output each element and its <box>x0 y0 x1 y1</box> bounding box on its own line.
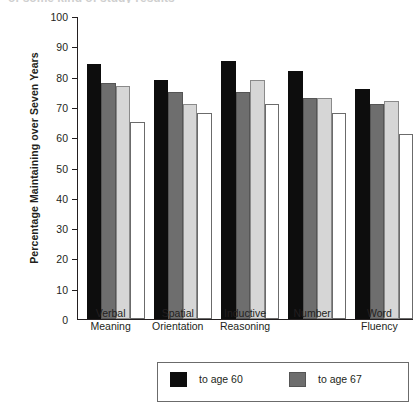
y-axis-tick-mark <box>72 229 77 230</box>
x-axis-category-label: WordFluency <box>346 307 413 332</box>
bar <box>154 80 169 319</box>
bar <box>101 83 116 319</box>
bar <box>87 64 102 319</box>
y-axis-tick-mark <box>72 290 77 291</box>
bar <box>168 92 183 319</box>
y-axis-tick-label: 100 <box>50 11 68 23</box>
y-axis-tick-mark <box>72 259 77 260</box>
x-axis-category-label-line: Orientation <box>144 320 211 333</box>
legend-swatch-icon-1 <box>289 372 306 387</box>
y-axis-tick-label: 10 <box>56 284 68 296</box>
legend-label-0: to age 60 <box>199 373 243 385</box>
chart-legend: to age 60 to age 67 <box>157 362 409 402</box>
bar <box>355 89 370 319</box>
bar <box>116 86 131 319</box>
y-axis-tick-label: 30 <box>56 223 68 235</box>
y-axis-tick-mark <box>72 78 77 79</box>
clipped-title-text: of some kind of study results <box>8 0 238 3</box>
x-axis-category-label-line: Spatial <box>144 307 211 320</box>
y-axis-tick-label: 70 <box>56 102 68 114</box>
y-axis-tick-mark <box>72 17 77 18</box>
bar <box>221 61 236 319</box>
legend-item-1: to age 67 <box>289 372 408 387</box>
bar-group <box>355 17 413 319</box>
bar <box>130 122 145 319</box>
bar <box>250 80 265 319</box>
bar <box>317 98 332 319</box>
x-axis-category-label-line: Word <box>346 307 413 320</box>
plot-area: 0102030405060708090100 <box>77 17 413 320</box>
legend-label-1: to age 67 <box>318 373 362 385</box>
legend-item-0: to age 60 <box>170 372 289 387</box>
bar-group <box>288 17 346 319</box>
y-axis-tick-mark <box>72 138 77 139</box>
x-axis-category-label-line: Meaning <box>77 320 144 333</box>
bar <box>288 71 303 319</box>
bar-group <box>154 17 212 319</box>
y-axis-title: Percentage Maintaining over Seven Years <box>28 28 40 288</box>
x-axis-category-label-line: Reasoning <box>211 320 278 333</box>
x-axis-category-label-line: Fluency <box>346 320 413 333</box>
y-axis-tick-label: 20 <box>56 253 68 265</box>
bar-series-container <box>78 17 413 319</box>
x-axis-category-label-line: Number <box>279 307 346 320</box>
x-axis-category-label-line: Verbal <box>77 307 144 320</box>
y-axis-tick-mark <box>72 47 77 48</box>
bar-group <box>87 17 145 319</box>
x-axis-category-label: VerbalMeaning <box>77 307 144 332</box>
x-axis-category-label: InductiveReasoning <box>211 307 278 332</box>
bar <box>332 113 347 319</box>
y-axis-tick-label: 40 <box>56 193 68 205</box>
bar <box>265 104 280 319</box>
bar <box>236 92 251 319</box>
y-axis-tick-label: 80 <box>56 72 68 84</box>
bar <box>399 134 414 319</box>
bar <box>183 104 198 319</box>
legend-row: to age 60 to age 67 <box>170 371 408 387</box>
y-axis-tick-label: 0 <box>62 314 68 326</box>
x-axis-category-label-line: Inductive <box>211 307 278 320</box>
bar <box>197 113 212 319</box>
y-axis-tick-label: 50 <box>56 163 68 175</box>
y-axis-tick-mark <box>72 108 77 109</box>
bar <box>384 101 399 319</box>
y-axis-tick-label: 90 <box>56 41 68 53</box>
x-axis-category-label: SpatialOrientation <box>144 307 211 332</box>
y-axis-tick-label: 60 <box>56 132 68 144</box>
y-axis-tick-mark <box>72 169 77 170</box>
bar <box>370 104 385 319</box>
bar <box>303 98 318 319</box>
bar-group <box>221 17 279 319</box>
x-axis-category-label: Number <box>279 307 346 320</box>
legend-swatch-icon-0 <box>170 372 187 387</box>
y-axis-tick-mark <box>72 199 77 200</box>
